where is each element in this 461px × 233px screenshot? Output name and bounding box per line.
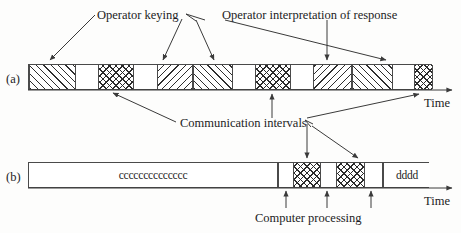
timeline-comparison-figure: Operator keying Operator interpretation … [0,0,461,233]
arrow-operator-keying-to-seg5 [163,19,182,60]
arrow-communication-to-cross1 [113,93,176,122]
arrow-communication-to-bar-b-diagonal [312,126,358,158]
annotation-leader-lines [0,0,461,233]
connector-operator-keying-bracket-top [186,14,205,20]
arrow-communication-to-cross3 [307,94,419,118]
arrow-operator-keying-to-seg1 [50,15,95,60]
connector-operator-keying-bracket-bottom [186,14,196,21]
arrow-operator-keying-to-seg6 [196,20,214,60]
arrow-operator-interpretation-diagonal [225,20,386,60]
